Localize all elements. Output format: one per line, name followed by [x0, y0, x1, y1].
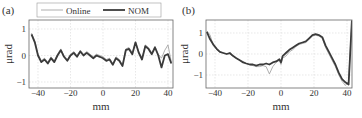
x-tick-label: 20	[131, 88, 141, 98]
y-tick-label: 1	[22, 24, 27, 34]
legend-entry: NOM	[128, 6, 149, 16]
x-tick-label: −20	[241, 88, 256, 98]
y-tick-label: 0	[199, 49, 204, 59]
legend-entry: Online	[66, 6, 91, 16]
x-tick-label: 40	[343, 88, 353, 98]
x-axis-label: mm	[92, 100, 110, 112]
panel-label: (b)	[182, 4, 195, 17]
y-tick-label: −1	[193, 70, 203, 80]
x-tick-label: 0	[279, 88, 284, 98]
x-tick-label: 40	[164, 88, 174, 98]
legend: OnlineNOM	[37, 3, 161, 17]
figure: −40−200204010−1mmμrad(a)OnlineNOM−40−200…	[0, 0, 362, 118]
panel-label: (a)	[2, 4, 15, 17]
x-tick-label: −40	[31, 88, 46, 98]
x-tick-label: 20	[310, 88, 320, 98]
y-tick-label: −1	[16, 77, 26, 87]
y-tick-label: 0	[22, 51, 27, 61]
series-nom	[32, 34, 172, 67]
x-tick-label: −20	[63, 88, 78, 98]
chart-panel-a: −40−200204010−1mmμrad(a)OnlineNOM	[2, 3, 173, 112]
y-axis-label: μrad	[178, 44, 190, 64]
chart-panel-b: −40−200204010−1mmμrad(b)	[178, 4, 352, 112]
x-tick-label: 0	[101, 88, 106, 98]
y-axis-label: μrad	[2, 44, 14, 64]
y-tick-label: 1	[199, 28, 204, 38]
x-tick-label: −40	[208, 88, 223, 98]
x-axis-label: mm	[272, 100, 290, 112]
